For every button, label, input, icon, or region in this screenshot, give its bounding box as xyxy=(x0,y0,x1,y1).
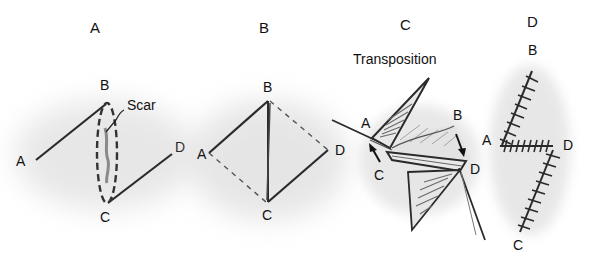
panel-c: C Transposition A B C D xyxy=(332,16,485,240)
point-label-b: B xyxy=(453,107,462,123)
point-label-d: D xyxy=(470,161,480,177)
panel-a-title: A xyxy=(90,19,100,36)
point-label-b: B xyxy=(528,42,537,58)
panel-b-title: B xyxy=(259,19,269,36)
panel-d-title: D xyxy=(527,13,538,30)
point-label-a: A xyxy=(361,115,371,131)
transposition-caption: Transposition xyxy=(353,51,437,67)
point-label-c: C xyxy=(513,237,523,253)
point-label-d: D xyxy=(175,139,185,155)
panel-c-title: C xyxy=(400,16,411,33)
point-label-d: D xyxy=(563,137,573,153)
point-label-c: C xyxy=(100,209,110,225)
point-label-a: A xyxy=(197,146,207,162)
point-label-a: A xyxy=(482,132,492,148)
scar-label: Scar xyxy=(127,97,156,113)
point-label-b: B xyxy=(100,77,109,93)
panel-b: B A B C D xyxy=(188,19,348,223)
point-label-b: B xyxy=(263,79,272,95)
point-label-c: C xyxy=(374,167,384,183)
panel-a: A Scar A B C D xyxy=(15,19,195,225)
point-label-c: C xyxy=(262,207,272,223)
z-plasty-figure: A Scar A B C D B A B C D C Transposition xyxy=(0,0,590,262)
panel-d: D B A D C xyxy=(482,13,573,253)
point-label-a: A xyxy=(16,153,26,169)
point-label-d: D xyxy=(335,142,345,158)
